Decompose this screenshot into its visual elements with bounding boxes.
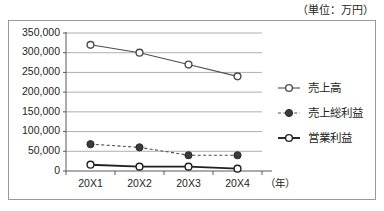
y-axis-tick-label: 350,000 — [22, 26, 60, 38]
legend-item[interactable]: 売上総利益 — [278, 106, 363, 119]
y-axis-tick-label: 300,000 — [22, 45, 60, 57]
data-point-marker — [136, 49, 143, 56]
legend-marker-swatch — [286, 85, 293, 92]
data-point-marker — [136, 144, 143, 151]
x-axis-tick-labels: 20X120X220X320X4（年） — [78, 177, 295, 189]
x-axis-unit-label: （年） — [265, 177, 295, 189]
data-point-marker — [234, 73, 241, 80]
data-series-group — [87, 41, 241, 172]
data-point-marker — [185, 61, 192, 68]
data-point-marker — [87, 141, 94, 148]
data-series — [87, 141, 241, 159]
gridlines-group — [66, 33, 262, 151]
data-point-marker — [234, 152, 241, 159]
legend-item[interactable]: 営業利益 — [278, 131, 352, 144]
data-series — [87, 41, 241, 79]
x-axis-tick-label: 20X4 — [225, 177, 250, 189]
y-axis-tick-labels: 050,000100,000150,000200,000250,000300,0… — [22, 26, 60, 176]
legend-label: 売上高 — [308, 81, 341, 94]
y-axis-tick-label: 100,000 — [22, 124, 60, 136]
line-chart: 050,000100,000150,000200,000250,000300,0… — [0, 0, 384, 211]
legend-label: 売上総利益 — [308, 106, 363, 119]
y-axis-tick-label: 0 — [54, 164, 60, 176]
x-axis-tick-label: 20X2 — [127, 177, 152, 189]
data-point-marker — [185, 152, 192, 159]
y-axis-tick-label: 150,000 — [22, 105, 60, 117]
x-axis-tick-label: 20X1 — [78, 177, 103, 189]
series-line — [91, 144, 238, 155]
series-line — [91, 165, 238, 169]
data-point-marker — [185, 163, 192, 170]
x-axis-tick-marks — [66, 171, 262, 175]
legend-marker-swatch — [286, 135, 293, 142]
data-point-marker — [87, 161, 94, 168]
chart-legend: 売上高売上総利益営業利益 — [278, 81, 363, 144]
legend-marker-swatch — [285, 109, 292, 116]
data-point-marker — [136, 163, 143, 170]
data-point-marker — [87, 41, 94, 48]
data-point-marker — [234, 165, 241, 172]
y-axis-tick-label: 50,000 — [28, 144, 60, 156]
x-axis-tick-label: 20X3 — [176, 177, 201, 189]
chart-screenshot: （単位：万円） 050,000100,000150,000200,000250,… — [0, 0, 384, 211]
y-axis-tick-label: 200,000 — [22, 85, 60, 97]
y-axis-tick-label: 250,000 — [22, 65, 60, 77]
legend-item[interactable]: 売上高 — [278, 81, 341, 94]
data-series — [87, 161, 241, 172]
series-line — [91, 45, 238, 77]
legend-label: 営業利益 — [308, 131, 352, 144]
